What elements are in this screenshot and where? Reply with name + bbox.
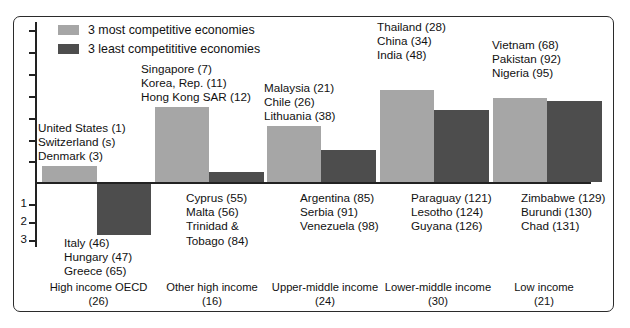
annotation-line: Greece (65)	[64, 264, 132, 278]
annotation-line: Argentina (85)	[300, 191, 379, 205]
annotation-least-competitive-group-3: Argentina (85) Serbia (91) Venezuela (98…	[300, 191, 379, 234]
annotation-line: Lesotho (124)	[411, 205, 492, 219]
bar-most-competitive-other-high-income[interactable]	[155, 107, 209, 182]
annotation-line: Burundi (130)	[521, 205, 605, 219]
bar-least-competitive-lower-middle-income[interactable]	[434, 110, 489, 182]
annotation-line: Malaysia (21)	[264, 81, 335, 95]
annotation-line: China (34)	[377, 34, 446, 48]
annotation-line: Malta (56)	[186, 205, 248, 219]
y-axis-tick	[29, 52, 36, 54]
chart-legend: 3 most competitive economies 3 least com…	[58, 21, 260, 59]
annotation-line: United States (1)	[38, 121, 126, 135]
annotation-line: Tobago (84)	[186, 234, 248, 248]
legend-item-label: 3 most competitive economies	[88, 23, 255, 37]
annotation-line: Singapore (7)	[141, 62, 251, 76]
y-axis-tick-3	[29, 240, 36, 242]
annotation-line: Vietnam (68)	[492, 38, 561, 52]
bar-most-competitive-high-income-oecd[interactable]	[42, 166, 97, 182]
annotation-most-competitive-group-5: Vietnam (68) Pakistan (92) Nigeria (95)	[492, 38, 561, 81]
annotation-least-competitive-group-4: Paraguay (121) Lesotho (124) Guyana (126…	[411, 191, 492, 234]
annotation-most-competitive-group-3: Malaysia (21) Chile (26) Lithuania (38)	[264, 81, 335, 124]
y-axis-tick	[29, 161, 36, 163]
annotation-line: Hungary (47)	[64, 250, 132, 264]
annotation-most-competitive-group-2: Singapore (7) Korea, Rep. (11) Hong Kong…	[141, 62, 251, 105]
chart-figure: 1 2 3 United States (1) Switzerland (s) …	[0, 0, 630, 328]
annotation-line: Lithuania (38)	[264, 109, 335, 123]
legend-swatch-icon	[58, 25, 79, 35]
y-axis-tick	[29, 74, 36, 76]
annotation-line: Cyprus (55)	[186, 191, 248, 205]
annotation-line: Nigeria (95)	[492, 66, 561, 80]
bar-least-competitive-upper-middle-income[interactable]	[321, 150, 376, 182]
annotation-line: Chad (131)	[521, 219, 605, 233]
bar-most-competitive-low-income[interactable]	[493, 98, 547, 182]
y-axis-tick-2	[29, 222, 36, 224]
category-name: Low income	[489, 281, 599, 295]
annotation-line: Italy (46)	[64, 236, 132, 250]
annotation-least-competitive-group-1: Italy (46) Hungary (47) Greece (65)	[64, 236, 132, 279]
plot-area: 1 2 3 United States (1) Switzerland (s) …	[0, 0, 630, 328]
annotation-line: Thailand (28)	[377, 20, 446, 34]
annotation-line: Paraguay (121)	[411, 191, 492, 205]
annotation-line: India (48)	[377, 48, 446, 62]
bar-least-competitive-other-high-income[interactable]	[209, 172, 264, 182]
annotation-line: Pakistan (92)	[492, 52, 561, 66]
annotation-line: Switzerland (s)	[38, 135, 126, 149]
y-axis-line	[35, 22, 37, 247]
annotation-line: Serbia (91)	[300, 205, 379, 219]
annotation-line: Venezuela (98)	[300, 219, 379, 233]
legend-item-least-competitive[interactable]: 3 least competititive economies	[58, 40, 260, 57]
bar-least-competitive-low-income[interactable]	[547, 101, 602, 182]
annotation-line: Chile (26)	[264, 95, 335, 109]
y-axis-tick	[29, 118, 36, 120]
bar-most-competitive-lower-middle-income[interactable]	[380, 90, 434, 182]
annotation-line: Trinidad &	[186, 219, 248, 233]
legend-swatch-icon	[58, 44, 79, 54]
legend-item-label: 3 least competititive economies	[88, 42, 260, 56]
annotation-line: Zimbabwe (129)	[521, 191, 605, 205]
annotation-line: Korea, Rep. (11)	[141, 76, 251, 90]
annotation-line: Hong Kong SAR (12)	[141, 90, 251, 104]
category-count: (21)	[489, 295, 599, 309]
y-axis-tick	[29, 140, 36, 142]
y-axis-tick	[29, 96, 36, 98]
bar-least-competitive-high-income-oecd[interactable]	[97, 184, 151, 235]
annotation-most-competitive-group-1: United States (1) Switzerland (s) Denmar…	[38, 121, 126, 164]
annotation-line: Guyana (126)	[411, 219, 492, 233]
y-axis-label-2: 2	[13, 216, 27, 228]
y-axis-label-1: 1	[13, 198, 27, 210]
annotation-least-competitive-group-5: Zimbabwe (129) Burundi (130) Chad (131)	[521, 191, 605, 234]
y-axis-tick-1	[29, 204, 36, 206]
x-axis-label-low-income: Low income (21)	[489, 281, 599, 308]
bar-most-competitive-upper-middle-income[interactable]	[267, 126, 321, 182]
annotation-most-competitive-group-4: Thailand (28) China (34) India (48)	[377, 20, 446, 63]
annotation-least-competitive-group-2: Cyprus (55) Malta (56) Trinidad & Tobago…	[186, 191, 248, 248]
annotation-line: Denmark (3)	[38, 149, 126, 163]
legend-item-most-competitive[interactable]: 3 most competitive economies	[58, 21, 260, 38]
y-axis-tick	[29, 30, 36, 32]
y-axis-label-3: 3	[13, 234, 27, 246]
